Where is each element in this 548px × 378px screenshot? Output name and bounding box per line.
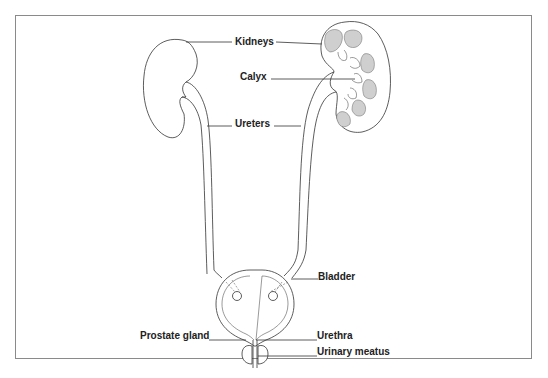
label-urethra: Urethra: [317, 330, 353, 341]
label-calyx: Calyx: [240, 71, 267, 82]
bladder: [216, 270, 294, 346]
left-ureter-entry: [214, 270, 222, 278]
prostate-gland: [242, 345, 268, 364]
label-prostate-gland: Prostate gland: [140, 330, 209, 341]
label-kidneys: Kidneys: [235, 36, 274, 47]
left-ureter: [182, 82, 214, 274]
right-ureter: [284, 72, 336, 278]
label-urinary-meatus: Urinary meatus: [317, 346, 390, 357]
right-kidney: [321, 22, 391, 133]
label-ureters: Ureters: [235, 118, 270, 129]
left-kidney: [143, 39, 197, 137]
urinary-system-diagram: Kidneys Calyx Ureters Bladder Prostate g…: [0, 0, 548, 378]
label-bladder: Bladder: [318, 271, 355, 282]
